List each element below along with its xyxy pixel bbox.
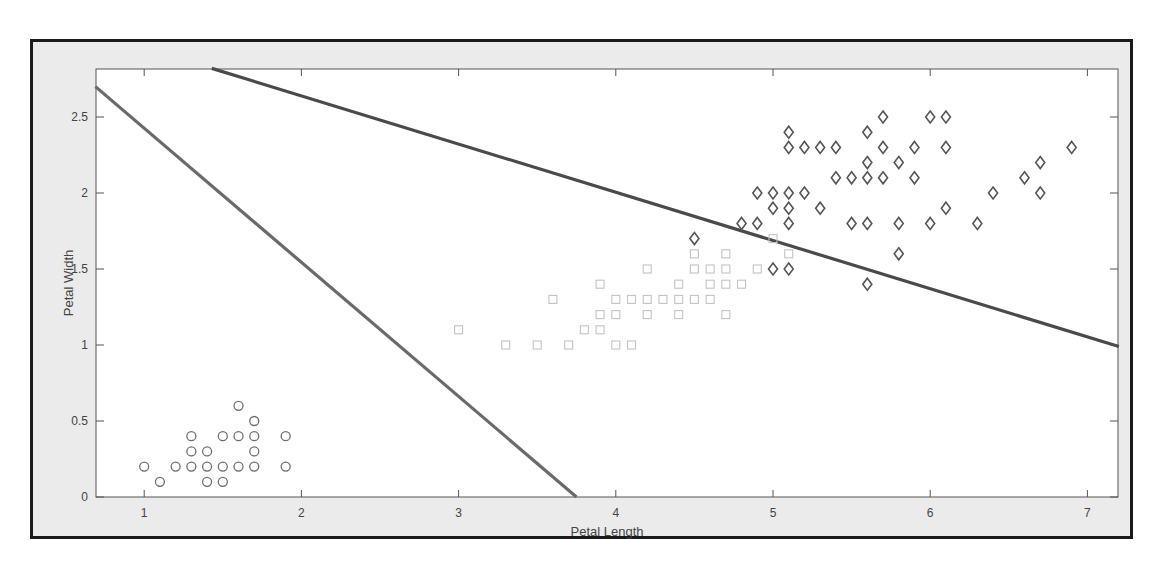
scatter-plot: 1234567 00.511.522.5 Petal Length Petal …	[0, 0, 1159, 574]
x-tick-label: 6	[927, 506, 934, 520]
y-tick-label: 2	[81, 186, 88, 200]
x-tick-label: 4	[612, 506, 619, 520]
y-tick-label: 2.5	[71, 110, 88, 124]
x-tick-label: 1	[141, 506, 148, 520]
y-tick-label: 0	[81, 490, 88, 504]
x-tick-label: 5	[770, 506, 777, 520]
y-tick-label: 1	[81, 338, 88, 352]
x-tick-label: 7	[1084, 506, 1091, 520]
x-axis-label: Petal Length	[570, 524, 643, 539]
y-tick-label: 0.5	[71, 414, 88, 428]
x-tick-label: 3	[455, 506, 462, 520]
x-tick-label: 2	[298, 506, 305, 520]
axes-area	[96, 69, 1118, 497]
y-axis-label: Petal Width	[61, 250, 76, 316]
